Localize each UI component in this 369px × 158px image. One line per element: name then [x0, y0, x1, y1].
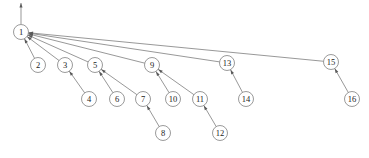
edge-arrowhead [335, 69, 339, 74]
graph-node-8[interactable]: 8 [156, 126, 171, 141]
edge-7-to-5 [101, 69, 137, 94]
edge-12-to-11 [204, 105, 216, 126]
graph-node-6[interactable]: 6 [110, 92, 125, 107]
edges-layer [24, 32, 348, 127]
edge-10-to-9 [156, 71, 169, 92]
tree-diagram: 12345678910111213141516 [0, 0, 369, 158]
edge-6-to-5 [99, 71, 113, 92]
nodes-layer: 12345678910111213141516 [14, 25, 360, 141]
edge-arrowhead [69, 71, 73, 76]
graph-node-9[interactable]: 9 [145, 58, 160, 73]
graph-node-5[interactable]: 5 [88, 58, 103, 73]
edge-2-to-1 [24, 39, 34, 59]
edge-14-to-13 [231, 70, 243, 93]
graph-node-4[interactable]: 4 [82, 92, 97, 107]
edge-line [28, 33, 219, 62]
graph-node-1[interactable]: 1 [14, 25, 29, 40]
graph-node-10[interactable]: 10 [166, 92, 181, 107]
edge-arrowhead [101, 69, 106, 73]
edge-arrowhead [147, 105, 151, 110]
edge-line [101, 69, 137, 94]
node-label: 11 [196, 94, 204, 104]
node-label: 6 [115, 94, 119, 104]
edge-arrowhead [24, 39, 27, 44]
node-label: 5 [93, 60, 97, 70]
node-label: 1 [19, 27, 23, 37]
node-label: 12 [216, 128, 225, 138]
edge-4-to-3 [69, 71, 84, 93]
node-label: 9 [150, 60, 154, 70]
node-label: 2 [36, 60, 40, 70]
edge-13-to-1 [28, 32, 219, 62]
root-incoming-arrow [19, 3, 22, 24]
edge-15-to-1 [28, 32, 323, 62]
edge-arrowhead [204, 105, 208, 110]
edge-arrowhead [156, 71, 160, 76]
node-label: 13 [223, 58, 232, 68]
edge-8-to-7 [147, 105, 159, 126]
root-arrowhead [19, 3, 22, 8]
node-label: 10 [169, 94, 178, 104]
graph-node-15[interactable]: 15 [324, 55, 339, 70]
edge-arrowhead [99, 71, 103, 76]
edge-11-to-9 [158, 69, 194, 94]
edge-line [28, 33, 323, 62]
node-label: 7 [141, 94, 145, 104]
graph-canvas: 12345678910111213141516 [0, 0, 369, 158]
graph-node-13[interactable]: 13 [220, 56, 235, 71]
graph-node-12[interactable]: 12 [213, 126, 228, 141]
edge-16-to-15 [335, 69, 349, 93]
graph-node-3[interactable]: 3 [58, 58, 73, 73]
graph-node-14[interactable]: 14 [239, 92, 254, 107]
node-label: 15 [327, 57, 336, 67]
edge-arrowhead [158, 69, 163, 73]
node-label: 3 [63, 60, 67, 70]
graph-node-16[interactable]: 16 [345, 92, 360, 107]
node-label: 14 [242, 94, 251, 104]
graph-node-2[interactable]: 2 [31, 58, 46, 73]
graph-node-7[interactable]: 7 [136, 92, 151, 107]
graph-node-11[interactable]: 11 [193, 92, 208, 107]
node-label: 8 [161, 128, 165, 138]
edge-arrowhead [231, 70, 235, 75]
edge-line [158, 69, 194, 94]
node-label: 16 [348, 94, 357, 104]
